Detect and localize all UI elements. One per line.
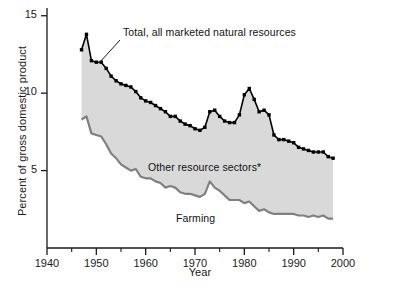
total-series-marker — [179, 119, 182, 122]
total-series-marker — [287, 139, 290, 142]
total-series-marker — [149, 101, 152, 104]
total-series-marker — [198, 129, 201, 132]
total-series-marker — [105, 67, 108, 70]
total-series-marker — [208, 110, 211, 113]
y-axis-tick-label: 15 — [0, 8, 37, 20]
y-axis-tick-label: 5 — [0, 163, 37, 175]
total-series-marker — [272, 133, 275, 136]
total-series-marker — [331, 156, 334, 159]
total-series-marker — [282, 138, 285, 141]
total-series-marker — [248, 87, 251, 90]
total-series-marker — [233, 121, 236, 124]
total-series-marker — [307, 149, 310, 152]
total-series-marker — [223, 119, 226, 122]
total-series-marker — [262, 108, 265, 111]
total-series-marker — [312, 150, 315, 153]
total-series-marker — [109, 74, 112, 77]
total-series-marker — [317, 150, 320, 153]
total-series-marker — [297, 146, 300, 149]
total-series-marker — [144, 99, 147, 102]
total-series-marker — [169, 115, 172, 118]
total-series-marker — [159, 107, 162, 110]
total-series-marker — [114, 79, 117, 82]
total-series-marker — [183, 122, 186, 125]
total-series-marker — [203, 126, 206, 129]
annotation-other-resource-sectors-label: Other resource sectors* — [148, 161, 261, 173]
total-series-marker — [134, 90, 137, 93]
total-series-marker — [277, 138, 280, 141]
total-series-marker — [257, 110, 260, 113]
total-series-marker — [188, 124, 191, 127]
total-series-marker — [218, 115, 221, 118]
total-series-marker — [292, 141, 295, 144]
annotation-farming-label: Farming — [176, 212, 215, 224]
total-series-marker — [164, 110, 167, 113]
total-series-marker — [90, 59, 93, 62]
chart-figure: Percent of gross domestic product Year T… — [0, 0, 400, 286]
total-series-marker — [238, 113, 241, 116]
total-label-leader-line — [100, 40, 120, 62]
total-series-marker — [327, 155, 330, 158]
total-series-marker — [267, 113, 270, 116]
total-series-marker — [154, 104, 157, 107]
total-series-marker — [129, 85, 132, 88]
x-axis-ticks — [47, 248, 343, 255]
y-axis-title: Percent of gross domestic product — [16, 16, 28, 246]
total-series-marker — [193, 127, 196, 130]
total-series-marker — [253, 98, 256, 101]
total-series-marker — [85, 33, 88, 36]
total-series-marker — [213, 108, 216, 111]
total-series-marker — [174, 115, 177, 118]
y-axis-ticks — [41, 16, 47, 171]
total-series-marker — [80, 48, 83, 51]
total-series-marker — [95, 60, 98, 63]
total-series-marker — [302, 147, 305, 150]
total-series-marker — [322, 150, 325, 153]
total-series-marker — [124, 84, 127, 87]
total-series-marker — [243, 93, 246, 96]
x-axis-tick-label: 2000 — [313, 257, 373, 269]
chart-plot-area — [0, 0, 400, 286]
total-series-marker — [139, 96, 142, 99]
annotation-total-label: Total, all marketed natural resources — [123, 26, 296, 38]
total-series-marker — [119, 82, 122, 85]
y-axis-tick-label: 10 — [0, 85, 37, 97]
other-resource-sectors-band — [82, 34, 334, 218]
total-series-marker — [228, 121, 231, 124]
